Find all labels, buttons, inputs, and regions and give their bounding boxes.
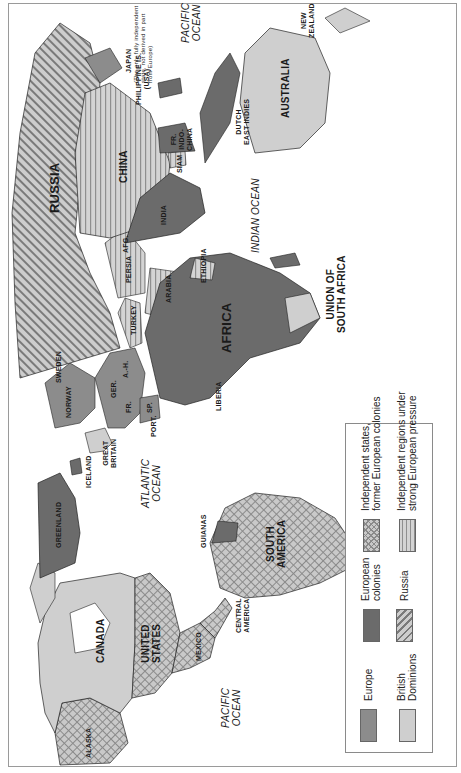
- label-sweden: SWEDEN: [55, 351, 63, 383]
- label-canada: CANADA: [95, 618, 106, 663]
- label-new-zealand: NEW ZEALAND: [300, 3, 316, 38]
- dutch-east-indies-region: [200, 53, 240, 163]
- label-norway: NORWAY: [65, 386, 73, 418]
- label-china: CHINA: [118, 150, 129, 183]
- label-germany: GER.: [110, 380, 118, 398]
- label-pacific-ocean-west: PACIFIC OCEAN: [220, 688, 242, 728]
- label-afghanistan: AFG.: [122, 235, 130, 253]
- label-japan: JAPAN: [125, 49, 133, 73]
- continental-europe-region: [95, 348, 145, 428]
- label-spain: SP.: [146, 402, 154, 413]
- label-central-america: CENTRAL AMERICA: [235, 598, 251, 633]
- south-africa-region: [285, 293, 320, 333]
- swatch-russia: [396, 609, 413, 642]
- label-siam: SIAM: [176, 155, 184, 173]
- label-australia: AUSTRALIA: [280, 58, 291, 118]
- label-turkey: TURKEY: [130, 305, 138, 335]
- philippines-region: [158, 78, 182, 98]
- swatch-british-dominions: [399, 709, 416, 742]
- label-ethiopia: ETHIOPIA: [200, 248, 208, 283]
- label-united-states: UNITED STATES: [140, 624, 162, 663]
- new-zealand-region: [325, 8, 370, 33]
- label-union-of-south-africa: UNION OF SOUTH AFRICA: [325, 255, 347, 333]
- label-austria-hungary: A.-H.: [122, 361, 130, 378]
- label-dutch-east-indies: DUTCH EAST INDIES: [235, 99, 251, 145]
- swatch-independent-pressure: [399, 519, 416, 552]
- label-japan-note: (The only fully independent state, not d…: [133, 6, 154, 83]
- label-india: INDIA: [160, 205, 168, 225]
- label-liberia: LIBERIA: [215, 382, 223, 411]
- madagascar-region: [270, 253, 300, 268]
- world-map-rotated: RUSSIA CHINA INDIA AFRICA AUSTRALIA CANA…: [0, 0, 461, 773]
- label-pacific-ocean-east: PACIFIC OCEAN: [180, 3, 202, 43]
- label-indian-ocean: INDIAN OCEAN: [250, 178, 261, 253]
- label-persia: PERSIA: [125, 256, 133, 283]
- swatch-europe: [360, 709, 377, 742]
- label-greenland: GREENLAND: [55, 502, 63, 548]
- label-atlantic-ocean: ATLANTIC OCEAN: [140, 459, 162, 508]
- iceland-region: [70, 458, 82, 475]
- label-france: FR.: [125, 401, 133, 413]
- label-fr-indo-china: FR. INDO- CHINA: [170, 128, 194, 151]
- legend-item-independent-former-colonies: Independent states, former European colo…: [360, 396, 382, 552]
- label-portugal: PORT.: [150, 415, 158, 437]
- label-alaska: ALASKA: [85, 728, 93, 758]
- label-iceland: ICELAND: [85, 455, 93, 488]
- map-legend: Europe British Dominions European coloni…: [345, 423, 433, 753]
- legend-item-russia: Russia: [396, 570, 413, 642]
- legend-item-independent-pressure: Independent regions under strong Europea…: [396, 391, 418, 552]
- label-mexico: MEXICO: [195, 632, 203, 661]
- label-south-america: SOUTH AMERICA: [265, 520, 287, 568]
- label-great-britain: GREAT BRITAIN: [102, 439, 118, 468]
- legend-item-european-colonies: European colonies: [360, 558, 382, 642]
- label-africa: AFRICA: [220, 303, 234, 353]
- guianas-region: [212, 521, 238, 543]
- swatch-independent-former-colonies: [363, 519, 380, 552]
- label-russia: RUSSIA: [48, 163, 62, 213]
- legend-item-europe: Europe: [360, 669, 377, 742]
- swatch-european-colonies: [363, 609, 380, 642]
- label-arabia: ARABIA: [165, 275, 173, 303]
- legend-item-british-dominions: British Dominions: [396, 654, 418, 742]
- label-guianas: GUIANAS: [200, 514, 208, 548]
